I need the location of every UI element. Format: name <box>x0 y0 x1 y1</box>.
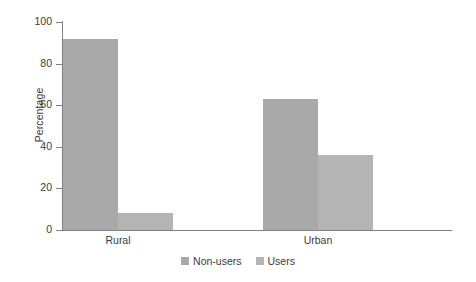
x-axis-line <box>62 230 452 231</box>
y-axis-tick-label-text: 100 <box>6 16 52 27</box>
bar-urban-users <box>318 155 373 230</box>
legend-item-users[interactable]: Users <box>256 256 295 267</box>
y-axis-tick-label-text: 40 <box>6 141 52 152</box>
bar-rural-non-users <box>63 39 118 230</box>
y-axis-tick-label-text: 80 <box>6 58 52 69</box>
legend-swatch-icon <box>256 257 264 265</box>
y-axis-tick-label: 80 <box>0 58 52 70</box>
y-axis-tick-label: 20 <box>0 182 52 194</box>
y-axis-title: Percentage <box>28 0 50 230</box>
y-axis-tick-label-text: 0 <box>6 224 52 235</box>
legend-label: Non-users <box>193 256 241 267</box>
legend-label: Users <box>268 256 295 267</box>
x-axis-category-label-urban: Urban <box>268 234 368 246</box>
y-axis-tick-label: 40 <box>0 141 52 153</box>
legend-item-non-users[interactable]: Non-users <box>181 256 241 267</box>
bar-urban-non-users <box>263 99 318 230</box>
y-axis-tick-label: 0 <box>0 224 52 236</box>
y-axis-tick-mark <box>56 230 62 231</box>
y-axis-tick-label-text: 60 <box>6 99 52 110</box>
x-axis-category-label-rural: Rural <box>68 234 168 246</box>
legend-swatch-icon <box>181 257 189 265</box>
plot-area <box>62 22 452 230</box>
y-axis-tick-label: 60 <box>0 99 52 111</box>
y-axis-tick-label-text: 20 <box>6 182 52 193</box>
bar-chart: Percentage 020406080100 RuralUrban Non-u… <box>0 0 476 282</box>
chart-legend: Non-usersUsers <box>0 256 476 267</box>
bar-rural-users <box>118 213 173 230</box>
y-axis-tick-label: 100 <box>0 16 52 28</box>
